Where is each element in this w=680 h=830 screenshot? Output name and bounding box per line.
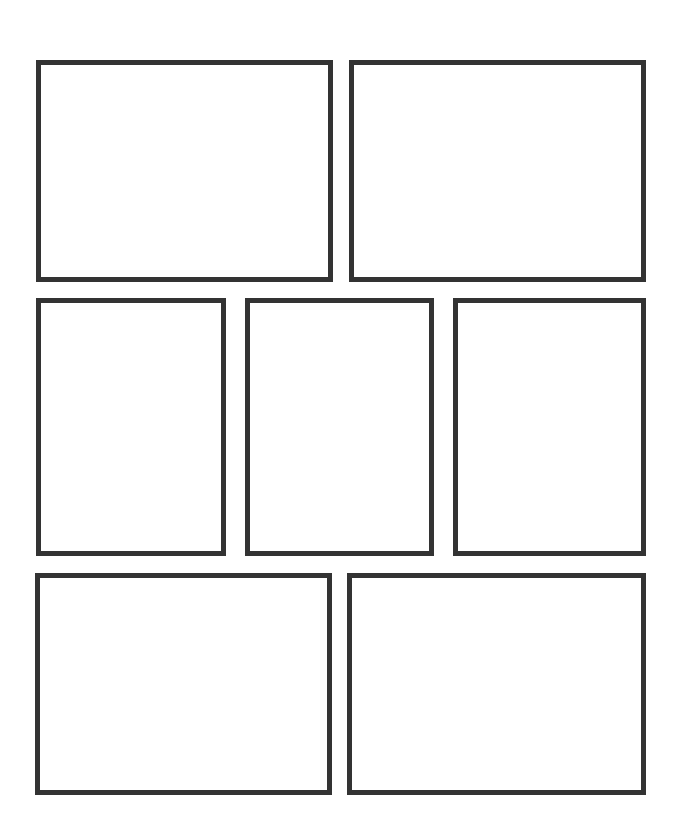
panel-row2-center xyxy=(245,298,434,556)
panel-row2-right xyxy=(453,298,646,556)
panel-row1-right xyxy=(349,60,646,282)
panel-row3-left xyxy=(35,573,332,795)
panel-row3-right xyxy=(347,573,646,795)
panel-row1-left xyxy=(36,60,333,282)
panel-row2-left xyxy=(36,298,226,556)
comic-page-template xyxy=(0,0,680,830)
